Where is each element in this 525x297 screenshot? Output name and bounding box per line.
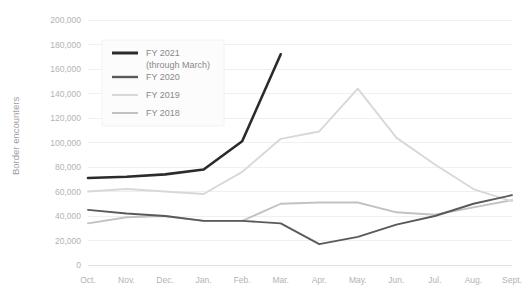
- y-tick-label: 120,000: [50, 113, 81, 123]
- y-tick-label: 60,000: [55, 187, 81, 197]
- y-tick-label: 100,000: [50, 138, 81, 148]
- x-tick-label: Jan.: [196, 275, 212, 285]
- y-tick-label: 200,000: [50, 15, 81, 25]
- x-tick-label: Feb.: [234, 275, 251, 285]
- x-tick-label: Sept.: [502, 275, 522, 285]
- x-tick-label: Mar.: [272, 275, 289, 285]
- y-tick-label: 20,000: [55, 236, 81, 246]
- y-axis-tick-labels: 020,00040,00060,00080,000100,000120,0001…: [50, 15, 81, 270]
- chart-container: 020,00040,00060,00080,000100,000120,0001…: [0, 0, 525, 297]
- x-tick-label: Apr.: [312, 275, 327, 285]
- y-tick-label: 180,000: [50, 40, 81, 50]
- y-tick-label: 140,000: [50, 89, 81, 99]
- y-tick-label: 160,000: [50, 64, 81, 74]
- line-chart: 020,00040,00060,00080,000100,000120,0001…: [0, 0, 525, 297]
- legend-label-fy-2020[interactable]: FY 2020: [146, 72, 180, 82]
- x-tick-label: Aug.: [465, 275, 483, 285]
- x-tick-label: Oct.: [80, 275, 96, 285]
- x-tick-label: Jul.: [428, 275, 441, 285]
- legend-label-fy-2021[interactable]: FY 2021: [146, 48, 180, 58]
- x-tick-label: May.: [349, 275, 367, 285]
- legend-sublabel-fy-2021: (through March): [146, 60, 210, 70]
- x-tick-label: Dec.: [156, 275, 173, 285]
- x-axis-tick-labels: Oct.Nov.Dec.Jan.Feb.Mar.Apr.May.Jun.Jul.…: [80, 275, 522, 285]
- y-tick-label: 80,000: [55, 162, 81, 172]
- y-tick-label: 40,000: [55, 211, 81, 221]
- legend-label-fy-2019[interactable]: FY 2019: [146, 90, 180, 100]
- y-axis-title: Border encounters: [10, 97, 21, 175]
- y-tick-label: 0: [76, 260, 81, 270]
- chart-legend[interactable]: FY 2021(through March)FY 2020FY 2019FY 2…: [102, 40, 224, 126]
- x-tick-label: Jun.: [388, 275, 404, 285]
- legend-label-fy-2018[interactable]: FY 2018: [146, 108, 180, 118]
- x-tick-label: Nov.: [118, 275, 135, 285]
